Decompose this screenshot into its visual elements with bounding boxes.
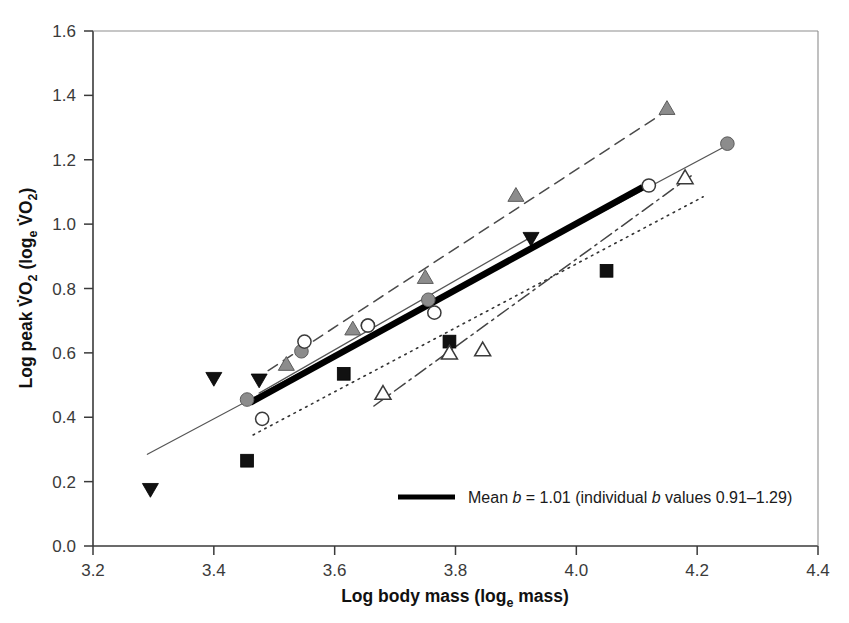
data-point-circle-filled	[721, 137, 735, 151]
x-tick-label: 3.8	[444, 561, 468, 580]
legend-label: Mean b = 1.01 (individual b values 0.91–…	[468, 489, 792, 506]
data-point-circle-open	[642, 179, 655, 192]
data-point-circle-filled	[422, 293, 436, 307]
data-point-circle-open	[298, 335, 311, 348]
x-tick-label: 3.4	[202, 561, 226, 580]
chart-canvas: 0.00.20.40.60.81.01.21.41.6 3.23.43.63.8…	[0, 0, 849, 623]
data-point-circle-filled	[240, 393, 254, 407]
y-tick-label: 0.2	[52, 473, 76, 492]
y-tick-label: 0.6	[52, 344, 76, 363]
y-tick-label: 1.4	[52, 86, 76, 105]
x-tick-label: 4.4	[806, 561, 830, 580]
y-tick-label: 1.6	[52, 22, 76, 41]
x-tick-label: 3.2	[81, 561, 105, 580]
y-tick-label: 1.2	[52, 151, 76, 170]
data-point-circle-open	[256, 412, 269, 425]
y-tick-label: 1.0	[52, 215, 76, 234]
y-tick-label: 0.8	[52, 280, 76, 299]
x-tick-label: 4.2	[685, 561, 709, 580]
figure-container: 0.00.20.40.60.81.01.21.41.6 3.23.43.63.8…	[0, 0, 849, 623]
chart-background	[0, 0, 849, 623]
data-point-circle-open	[428, 306, 441, 319]
x-tick-label: 4.0	[565, 561, 589, 580]
data-point-square-filled	[241, 454, 254, 467]
y-tick-label: 0.0	[52, 537, 76, 556]
y-tick-label: 0.4	[52, 408, 76, 427]
data-point-square-filled	[337, 367, 350, 380]
data-point-square-filled	[600, 264, 613, 277]
data-point-circle-open	[361, 319, 374, 332]
x-tick-label: 3.6	[323, 561, 347, 580]
